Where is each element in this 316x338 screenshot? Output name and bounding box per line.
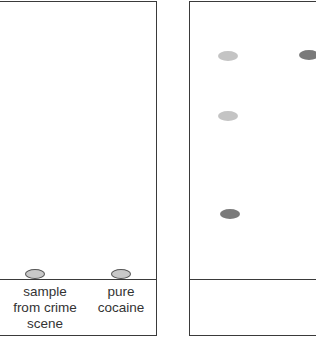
spot-sample-1 [218, 51, 238, 61]
origin-line [190, 279, 316, 280]
spot-cocaine [299, 50, 316, 60]
tlc-plate-before: sample from crime scene pure cocaine [0, 1, 157, 336]
label-cocaine: pure cocaine [91, 284, 151, 316]
spot-sample-2 [218, 111, 238, 121]
label-line: cocaine [91, 300, 151, 316]
origin-line [0, 279, 156, 280]
label-line: pure [91, 284, 151, 300]
label-line: sample [5, 284, 85, 300]
spot-cocaine-origin [111, 269, 131, 279]
label-sample: sample from crime scene [5, 284, 85, 332]
label-line: from crime [5, 300, 85, 316]
label-line: scene [5, 316, 85, 332]
spot-sample-origin [25, 269, 45, 279]
tlc-plate-after [189, 1, 316, 336]
spot-sample-3 [220, 209, 240, 219]
